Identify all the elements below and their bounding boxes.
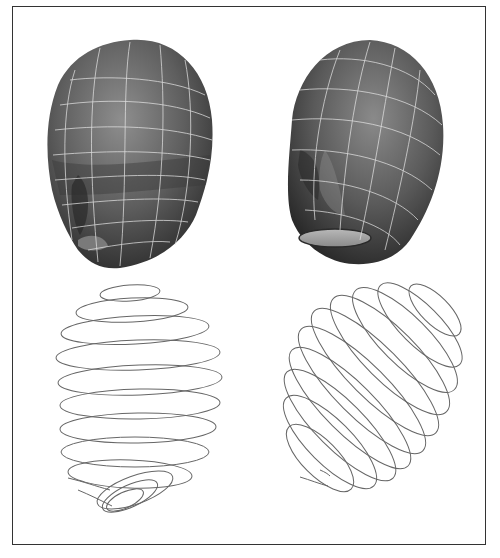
- head-side-model: [288, 40, 443, 264]
- figure-canvas: [0, 0, 500, 558]
- spiral-front-curve: [56, 283, 223, 519]
- spiral-side-curve: [270, 271, 474, 502]
- head-front-model: [47, 40, 212, 269]
